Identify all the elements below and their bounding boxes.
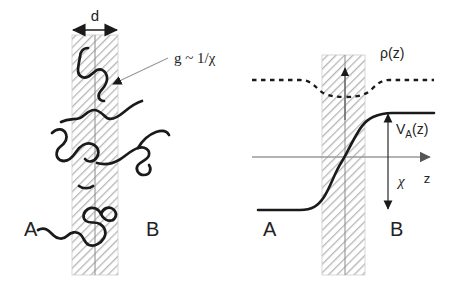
right-panel-group: [252, 55, 434, 275]
chi-label: χ: [396, 173, 405, 189]
diagram-canvas: d g ~ 1/χ A B ρ(z) VA(z) χ z A B: [0, 0, 450, 286]
z-axis-label: z: [424, 171, 431, 186]
potential-label-va: VA(z): [396, 121, 428, 140]
left-region-label-a: A: [24, 218, 38, 240]
right-region-label-b: B: [390, 218, 403, 240]
annotation-leader-line: [113, 58, 168, 84]
right-region-label-a: A: [263, 218, 277, 240]
density-label-rho: ρ(z): [380, 45, 404, 61]
right-interface-band: [322, 55, 365, 275]
potential-label-va-tail: (z): [412, 121, 428, 137]
width-label-d: d: [91, 7, 99, 24]
annotation-label-g: g ~ 1/χ: [174, 50, 216, 66]
left-region-label-b: B: [146, 218, 159, 240]
polymer-chain-4b: [138, 131, 169, 148]
figure-root: d g ~ 1/χ A B ρ(z) VA(z) χ z A B: [0, 0, 450, 286]
